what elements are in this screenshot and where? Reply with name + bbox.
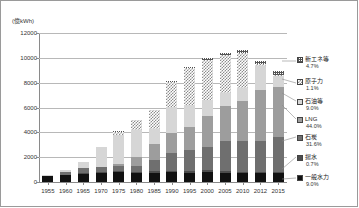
y-axis-unit-label: (億kWh) <box>12 16 34 25</box>
bar-segment-一般水力 <box>149 173 160 182</box>
bar-segment-一般水力 <box>273 173 284 182</box>
bar-segment-揚水 <box>220 171 231 173</box>
x-axis-tick-label-2005: 2005 <box>218 188 231 194</box>
bar-segment-一般水力 <box>166 172 177 182</box>
x-axis-tick-mark <box>207 182 208 185</box>
legend-swatch-icon <box>297 175 303 181</box>
bar-segment-原子力 <box>237 53 248 89</box>
bar-2010[interactable] <box>237 50 248 182</box>
legend-entry-LNG[interactable]: LNG44.0% <box>297 116 322 130</box>
bar-segment-石油等 <box>237 88 248 100</box>
bar-segment-石油等 <box>131 130 142 157</box>
legend-swatch-icon <box>297 117 303 123</box>
bar-1980[interactable] <box>131 119 142 182</box>
bar-segment-原子力 <box>166 82 177 107</box>
bar-1965[interactable] <box>78 162 89 182</box>
y-axis-tick-mark <box>36 33 39 34</box>
legend-share-value: 4.7% <box>306 63 329 70</box>
x-axis-tick-mark <box>172 182 173 185</box>
bar-1970[interactable] <box>96 146 107 182</box>
bar-segment-石油等 <box>220 93 231 106</box>
bar-segment-一般水力 <box>237 173 248 182</box>
gridline <box>39 157 287 158</box>
legend-swatch-icon <box>297 155 303 161</box>
bar-1985[interactable] <box>149 109 160 183</box>
bar-segment-LNG <box>273 87 284 137</box>
bar-2005[interactable] <box>220 53 231 183</box>
x-axis-tick-mark <box>83 182 84 185</box>
bar-segment-石炭 <box>78 168 89 173</box>
bar-segment-新エネ等 <box>273 71 284 75</box>
bar-segment-揚水 <box>149 171 160 172</box>
legend-label: 石油等 <box>305 98 323 105</box>
legend-share-value: 44.0% <box>306 123 322 130</box>
legend-swatch-icon <box>297 99 303 105</box>
bar-segment-一般水力 <box>60 175 71 182</box>
bar-1960[interactable] <box>60 170 71 182</box>
y-axis-tick-label: 6000 <box>24 105 37 111</box>
x-axis-tick-mark <box>66 182 67 185</box>
x-axis-tick-label-1985: 1985 <box>147 188 160 194</box>
x-axis-tick-mark <box>119 182 120 185</box>
legend-swatch-icon <box>297 57 303 63</box>
bar-segment-LNG <box>220 106 231 141</box>
bar-segment-揚水 <box>166 171 177 172</box>
bar-segment-原子力 <box>184 68 195 104</box>
x-axis-tick-mark <box>101 182 102 185</box>
legend-entry-一般水力[interactable]: 一般水力9.0% <box>297 174 329 188</box>
legend-entry-石油等[interactable]: 石油等9.0% <box>297 98 323 112</box>
bar-1975[interactable] <box>113 131 124 182</box>
x-axis-tick-label-2010: 2010 <box>236 188 249 194</box>
bar-segment-一般水力 <box>220 173 231 182</box>
bar-1990[interactable] <box>166 81 177 182</box>
y-axis-tick-label: 4000 <box>24 129 37 135</box>
bar-segment-新エネ等 <box>255 61 266 64</box>
bar-segment-原子力 <box>273 75 284 76</box>
x-axis-tick-label-2012: 2012 <box>254 188 267 194</box>
bar-1955[interactable] <box>42 175 53 182</box>
bar-segment-LNG <box>149 144 160 160</box>
bar-segment-揚水 <box>273 172 284 173</box>
bar-segment-石炭 <box>42 175 53 176</box>
bar-2000[interactable] <box>202 58 213 182</box>
bar-segment-石炭 <box>131 166 142 172</box>
x-axis-tick-mark <box>136 182 137 185</box>
bar-segment-LNG <box>131 157 142 166</box>
bar-segment-揚水 <box>131 172 142 173</box>
legend-label: 原子力 <box>305 78 323 85</box>
gridline <box>39 33 287 34</box>
legend-entry-新エネ等[interactable]: 新エネ等4.7% <box>297 56 329 70</box>
y-axis-tick-mark <box>36 157 39 158</box>
bar-segment-石炭 <box>166 153 177 171</box>
bar-2015[interactable] <box>273 71 284 183</box>
x-axis-tick-mark <box>190 182 191 185</box>
y-axis-tick-label: 12000 <box>20 30 37 36</box>
legend-label: 一般水力 <box>305 174 329 181</box>
bar-segment-石炭 <box>60 172 71 175</box>
bar-segment-石炭 <box>113 166 124 171</box>
legend-entry-揚水[interactable]: 揚水0.7% <box>297 154 319 168</box>
bar-segment-一般水力 <box>184 173 195 182</box>
x-axis-tick-label-1980: 1980 <box>130 188 143 194</box>
bar-segment-揚水 <box>202 170 213 172</box>
x-axis-tick-mark <box>278 182 279 185</box>
gridline <box>39 132 287 133</box>
bar-segment-一般水力 <box>202 172 213 182</box>
bar-1995[interactable] <box>184 67 195 182</box>
y-axis-tick-mark <box>36 58 39 59</box>
bar-segment-LNG <box>202 116 213 147</box>
x-axis-tick-label-1990: 1990 <box>165 188 178 194</box>
bar-2012[interactable] <box>255 61 266 182</box>
bar-segment-LNG <box>255 90 266 141</box>
bar-segment-新エネ等 <box>166 81 177 82</box>
bar-segment-石油等 <box>166 107 177 133</box>
legend-entry-原子力[interactable]: 原子力1.1% <box>297 78 323 92</box>
x-axis-tick-label-1995: 1995 <box>183 188 196 194</box>
bar-segment-新エネ等 <box>202 58 213 60</box>
bar-segment-石油等 <box>113 135 124 164</box>
legend-entry-石炭[interactable]: 石炭31.6% <box>297 134 322 148</box>
bar-segment-原子力 <box>96 146 107 147</box>
bar-segment-石油等 <box>60 170 71 172</box>
x-axis-line <box>39 182 287 183</box>
bar-segment-石炭 <box>96 167 107 172</box>
